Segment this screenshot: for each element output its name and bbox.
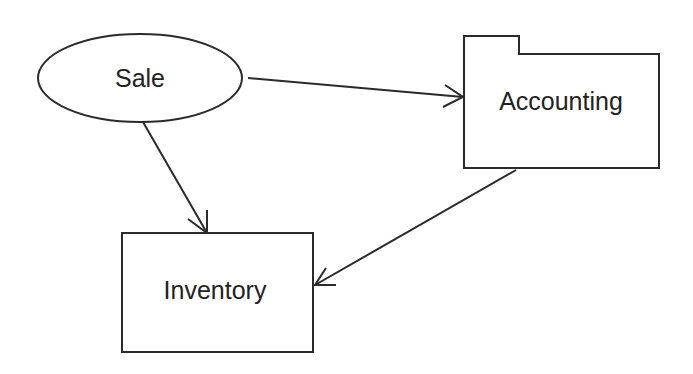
node-accounting-label: Accounting [499, 87, 623, 115]
edge-sale-to-inventory [143, 122, 207, 233]
node-sale[interactable]: Sale [38, 34, 242, 122]
edge-accounting-to-inventory [315, 170, 516, 285]
node-accounting[interactable]: Accounting [464, 36, 659, 168]
node-inventory-label: Inventory [164, 276, 267, 304]
edge-sale-to-accounting [248, 78, 463, 107]
node-inventory[interactable]: Inventory [122, 233, 313, 352]
node-sale-label: Sale [115, 64, 165, 92]
diagram-canvas: Sale Accounting Inventory [0, 0, 693, 374]
